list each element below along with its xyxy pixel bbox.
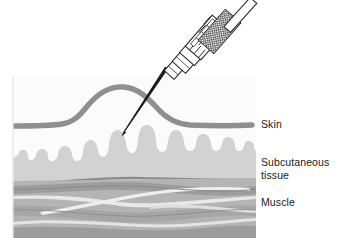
label-subcutaneous-line2: tissue xyxy=(261,169,289,181)
injection-diagram: Skin Subcutaneoustissue Muscle xyxy=(0,0,339,238)
syringe xyxy=(164,0,256,79)
label-skin: Skin xyxy=(261,118,282,131)
tissue-block xyxy=(12,76,270,238)
label-subcutaneous-tissue: Subcutaneoustissue xyxy=(261,156,329,182)
muscle-layer xyxy=(12,176,256,238)
block-left-edge xyxy=(12,76,14,238)
label-subcutaneous-line1: Subcutaneous xyxy=(261,156,329,168)
label-muscle: Muscle xyxy=(261,196,295,209)
